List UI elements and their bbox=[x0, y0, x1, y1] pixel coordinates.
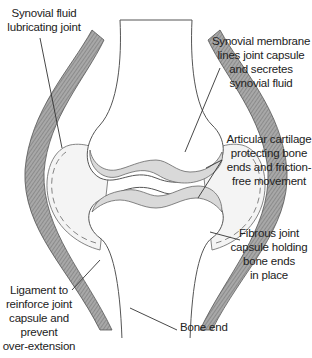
label-articular-cartilage: Articular cartilage protecting bone ends… bbox=[224, 132, 312, 188]
label-ligament: Ligament to reinforce joint capsule and … bbox=[0, 283, 78, 353]
lower-bone bbox=[89, 187, 224, 340]
upper-bone bbox=[87, 20, 223, 182]
label-fibrous-capsule: Fibrous joint capsule holding bone ends … bbox=[228, 226, 310, 282]
label-synovial-fluid: Synovial fluid lubricating joint bbox=[4, 6, 84, 34]
label-synovial-membrane: Synovial membrane lines joint capsule an… bbox=[210, 34, 312, 90]
label-bone-end: Bone end bbox=[180, 320, 240, 334]
